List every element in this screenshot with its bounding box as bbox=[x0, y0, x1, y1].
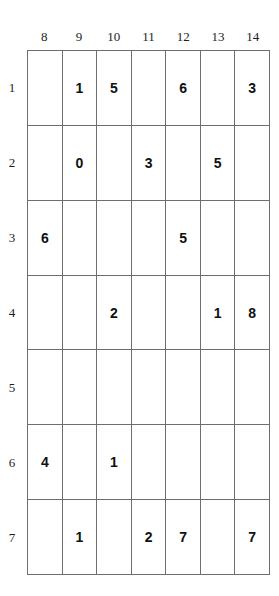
column-header-9: 9 bbox=[62, 26, 97, 48]
cell-grid: 156303565218411277 bbox=[27, 50, 270, 575]
grid-cell-r2-c12[interactable] bbox=[166, 126, 201, 200]
row-header-4: 4 bbox=[0, 275, 27, 350]
table-row: 65 bbox=[28, 201, 270, 276]
grid-cell-r1-c11[interactable] bbox=[132, 51, 167, 125]
table-row bbox=[28, 350, 270, 425]
grid-cell-r5-c11[interactable] bbox=[132, 350, 167, 424]
number-grid-figure: 891011121314 1234567 156303565218411277 bbox=[0, 0, 279, 596]
grid-cell-r1-c10[interactable]: 5 bbox=[97, 51, 132, 125]
column-header-8: 8 bbox=[27, 26, 62, 48]
grid-cell-r4-c8[interactable] bbox=[28, 276, 63, 350]
grid-cell-r3-c12[interactable]: 5 bbox=[166, 201, 201, 275]
grid-cell-r6-c11[interactable] bbox=[132, 425, 167, 499]
grid-cell-r6-c9[interactable] bbox=[63, 425, 98, 499]
column-header-12: 12 bbox=[166, 26, 201, 48]
grid-cell-r3-c8[interactable]: 6 bbox=[28, 201, 63, 275]
column-header-10: 10 bbox=[96, 26, 131, 48]
grid-cell-r4-c12[interactable] bbox=[166, 276, 201, 350]
grid-cell-r3-c11[interactable] bbox=[132, 201, 167, 275]
row-header-2: 2 bbox=[0, 125, 27, 200]
grid-cell-r7-c10[interactable] bbox=[97, 500, 132, 574]
grid-cell-r6-c12[interactable] bbox=[166, 425, 201, 499]
row-header-7: 7 bbox=[0, 500, 27, 575]
row-header-1: 1 bbox=[0, 50, 27, 125]
grid-cell-r5-c10[interactable] bbox=[97, 350, 132, 424]
grid-cell-r6-c13[interactable] bbox=[201, 425, 236, 499]
column-header-14: 14 bbox=[235, 26, 270, 48]
grid-cell-r7-c12[interactable]: 7 bbox=[166, 500, 201, 574]
grid-cell-r3-c9[interactable] bbox=[63, 201, 98, 275]
grid-cell-r5-c13[interactable] bbox=[201, 350, 236, 424]
grid-cell-r3-c14[interactable] bbox=[235, 201, 270, 275]
grid-cell-r2-c9[interactable]: 0 bbox=[63, 126, 98, 200]
grid-cell-r5-c8[interactable] bbox=[28, 350, 63, 424]
grid-cell-r1-c12[interactable]: 6 bbox=[166, 51, 201, 125]
grid-cell-r4-c9[interactable] bbox=[63, 276, 98, 350]
row-header-6: 6 bbox=[0, 425, 27, 500]
grid-cell-r3-c10[interactable] bbox=[97, 201, 132, 275]
grid-cell-r1-c9[interactable]: 1 bbox=[63, 51, 98, 125]
grid-cell-r7-c9[interactable]: 1 bbox=[63, 500, 98, 574]
row-label-column: 1234567 bbox=[0, 50, 27, 575]
grid-cell-r7-c11[interactable]: 2 bbox=[132, 500, 167, 574]
row-header-5: 5 bbox=[0, 350, 27, 425]
grid-cell-r6-c14[interactable] bbox=[235, 425, 270, 499]
row-header-3: 3 bbox=[0, 200, 27, 275]
grid-cell-r6-c10[interactable]: 1 bbox=[97, 425, 132, 499]
table-row: 41 bbox=[28, 425, 270, 500]
grid-cell-r1-c13[interactable] bbox=[201, 51, 236, 125]
column-header-11: 11 bbox=[131, 26, 166, 48]
table-row: 218 bbox=[28, 276, 270, 351]
grid-cell-r2-c8[interactable] bbox=[28, 126, 63, 200]
grid-cell-r7-c8[interactable] bbox=[28, 500, 63, 574]
grid-cell-r7-c13[interactable] bbox=[201, 500, 236, 574]
table-row: 1563 bbox=[28, 51, 270, 126]
grid-cell-r5-c9[interactable] bbox=[63, 350, 98, 424]
grid-cell-r5-c12[interactable] bbox=[166, 350, 201, 424]
grid-cell-r2-c11[interactable]: 3 bbox=[132, 126, 167, 200]
grid-cell-r6-c8[interactable]: 4 bbox=[28, 425, 63, 499]
grid-cell-r2-c13[interactable]: 5 bbox=[201, 126, 236, 200]
grid-cell-r4-c14[interactable]: 8 bbox=[235, 276, 270, 350]
table-row: 035 bbox=[28, 126, 270, 201]
grid-cell-r4-c13[interactable]: 1 bbox=[201, 276, 236, 350]
table-row: 1277 bbox=[28, 500, 270, 575]
grid-cell-r2-c10[interactable] bbox=[97, 126, 132, 200]
column-header-row: 891011121314 bbox=[27, 26, 270, 48]
grid-cell-r2-c14[interactable] bbox=[235, 126, 270, 200]
grid-cell-r5-c14[interactable] bbox=[235, 350, 270, 424]
grid-cell-r3-c13[interactable] bbox=[201, 201, 236, 275]
grid-cell-r1-c8[interactable] bbox=[28, 51, 63, 125]
grid-cell-r4-c11[interactable] bbox=[132, 276, 167, 350]
column-header-13: 13 bbox=[201, 26, 236, 48]
grid-cell-r4-c10[interactable]: 2 bbox=[97, 276, 132, 350]
grid-cell-r7-c14[interactable]: 7 bbox=[235, 500, 270, 574]
grid-cell-r1-c14[interactable]: 3 bbox=[235, 51, 270, 125]
